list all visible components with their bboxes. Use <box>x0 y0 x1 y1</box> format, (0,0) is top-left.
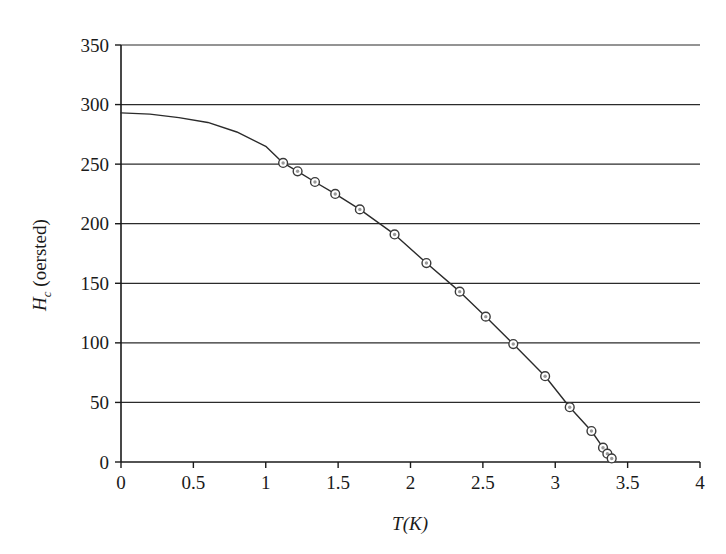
x-tick-label: 2 <box>406 472 416 493</box>
chart-figure: 050100150200250300350 00.511.522.533.54 … <box>0 0 726 554</box>
y-tick-label: 50 <box>90 392 109 413</box>
x-tick-label: 3 <box>551 472 561 493</box>
x-tick-label: 2.5 <box>471 472 495 493</box>
data-point-marker <box>541 372 550 381</box>
data-point-marker <box>293 167 302 176</box>
data-point-marker <box>311 178 320 187</box>
data-point-marker <box>587 427 596 436</box>
x-tick-label: 3.5 <box>616 472 640 493</box>
data-point-marker <box>390 230 399 239</box>
x-tick-label: 0.5 <box>182 472 206 493</box>
y-tick-label: 150 <box>81 273 110 294</box>
y-tick-label: 0 <box>100 452 110 473</box>
x-tick-label: 1.5 <box>326 472 350 493</box>
y-tick-label: 350 <box>81 35 110 56</box>
x-tick-label: 4 <box>695 472 705 493</box>
data-point-marker <box>509 340 518 349</box>
data-point-marker <box>422 259 431 268</box>
data-point-marker <box>607 454 616 463</box>
data-point-marker <box>279 159 288 168</box>
x-axis-tick-labels: 00.511.522.533.54 <box>116 472 705 493</box>
data-point-marker <box>331 190 340 199</box>
x-tick-label: 1 <box>261 472 271 493</box>
y-tick-label: 300 <box>81 94 110 115</box>
data-point-marker <box>565 403 574 412</box>
data-point-marker <box>455 287 464 296</box>
y-tick-label: 250 <box>81 154 110 175</box>
x-tick-label: 0 <box>116 472 126 493</box>
chart-plot-area: 050100150200250300350 00.511.522.533.54 … <box>0 0 726 554</box>
data-point-marker <box>481 312 490 321</box>
x-axis-title: T(K) <box>392 513 428 535</box>
y-tick-label: 200 <box>81 213 110 234</box>
y-tick-label: 100 <box>81 332 110 353</box>
data-point-marker <box>355 205 364 214</box>
